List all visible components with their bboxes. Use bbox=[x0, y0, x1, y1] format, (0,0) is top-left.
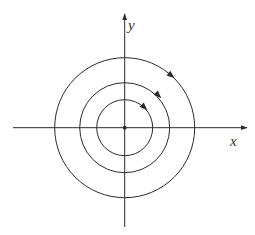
y-axis-label: y bbox=[128, 18, 135, 33]
arrow-middle-icon bbox=[154, 91, 164, 101]
x-axis-label: x bbox=[230, 134, 237, 149]
diagram-svg bbox=[0, 0, 255, 235]
equilibrium-point bbox=[123, 126, 127, 130]
arrow-inner-icon bbox=[140, 103, 150, 113]
phase-portrait-diagram: y x bbox=[0, 0, 255, 235]
